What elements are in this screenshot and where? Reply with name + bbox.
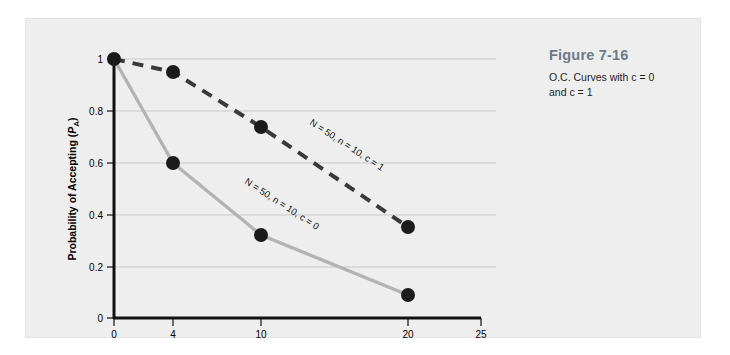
y-tick-label-0p2: 0.2 <box>89 262 103 273</box>
x-tick-label-4: 4 <box>170 329 176 339</box>
x-tick-label-20: 20 <box>402 329 414 339</box>
y-tick-label-0: 0 <box>97 313 103 324</box>
x-tick-label-25: 25 <box>475 329 487 339</box>
y-tick-label-0p8: 0.8 <box>89 106 103 117</box>
chart-plot-area: 1 0.8 0.6 0.4 0.2 0 0 4 10 20 25 <box>26 19 531 339</box>
data-point <box>254 120 268 134</box>
x-tick-label-10: 10 <box>255 329 267 339</box>
data-point <box>107 52 121 66</box>
y-axis-title-main: Probability of Accepting ( <box>66 133 78 260</box>
y-axis-title: Probability of Accepting (PA) <box>66 117 81 260</box>
data-point <box>166 65 180 79</box>
x-tick-label-0: 0 <box>111 329 117 339</box>
series-line-c-one <box>114 59 408 227</box>
series-markers-c-zero <box>166 156 415 302</box>
series-annotation-c-zero: N = 50, n = 10, c = 0 <box>243 175 321 231</box>
y-tick-label-1: 1 <box>97 54 103 65</box>
data-point <box>401 220 415 234</box>
data-point <box>166 156 180 170</box>
oc-curves-chart: 1 0.8 0.6 0.4 0.2 0 0 4 10 20 25 <box>26 19 531 339</box>
series-markers-c-one <box>107 52 415 234</box>
figure-caption-line-2: and c = 1 <box>549 86 593 98</box>
series-annotation-c-one: N = 50, n = 10, c = 1 <box>308 116 386 172</box>
figure-caption-line-1: O.C. Curves with c = 0 <box>549 71 654 83</box>
figure-number: Figure 7-16 <box>549 47 709 63</box>
y-axis-title-close: ) <box>66 117 78 121</box>
figure-panel: 1 0.8 0.6 0.4 0.2 0 0 4 10 20 25 <box>25 18 701 338</box>
data-point <box>401 288 415 302</box>
y-tick-label-0p4: 0.4 <box>89 210 103 221</box>
y-tick-label-0p6: 0.6 <box>89 158 103 169</box>
figure-caption-block: Figure 7-16 O.C. Curves with c = 0 and c… <box>549 47 709 100</box>
figure-caption-text: O.C. Curves with c = 0 and c = 1 <box>549 70 709 100</box>
data-point <box>254 228 268 242</box>
series-line-c-zero <box>114 59 408 295</box>
